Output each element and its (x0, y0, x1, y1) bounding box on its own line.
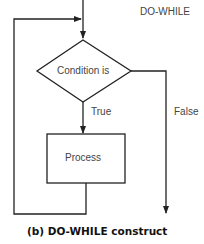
false-arrow (131, 71, 166, 213)
process-label: Process (65, 152, 101, 163)
caption: (b) DO-WHILE construct (27, 225, 167, 237)
diagram-title: DO-WHILE (140, 6, 190, 17)
decision-label: Condition is (57, 65, 109, 76)
true-label: True (91, 106, 111, 117)
flowchart (0, 0, 204, 244)
false-label: False (174, 106, 198, 117)
